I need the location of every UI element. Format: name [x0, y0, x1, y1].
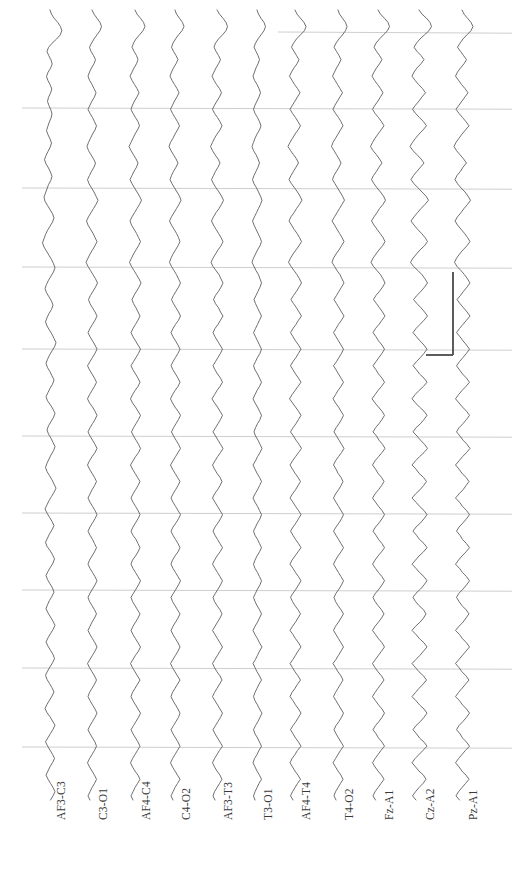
eeg-trace	[211, 10, 228, 800]
channel-label-c3-o1: C3-O1	[97, 788, 109, 820]
gridline	[22, 590, 512, 591]
gridline	[22, 436, 512, 437]
eeg-trace	[252, 10, 266, 800]
eeg-trace	[169, 10, 184, 800]
channel-label-af3-c3: AF3-C3	[55, 781, 67, 820]
eeg-trace	[86, 10, 102, 800]
eeg-trace	[410, 10, 432, 800]
channel-label-af4-t4: AF4-T4	[300, 782, 312, 820]
gridline	[22, 188, 512, 189]
gridline	[22, 108, 512, 109]
channel-label-fz-a1: Fz-A1	[383, 790, 395, 820]
channel-label-af4-c4: AF4-C4	[140, 781, 152, 820]
eeg-figure: AF3-C3C3-O1AF4-C4C4-O2AF3-T3T3-O1AF4-T4T…	[0, 0, 519, 895]
channel-label-pz-a1: Pz-A1	[467, 790, 479, 820]
eeg-trace	[371, 10, 390, 800]
channel-label-t3-o1: T3-O1	[262, 788, 274, 820]
channel-label-t4-o2: T4-O2	[343, 788, 355, 820]
eeg-trace	[332, 10, 348, 800]
gridline	[22, 267, 512, 268]
gridline	[22, 668, 512, 669]
scale-bar	[426, 272, 453, 355]
gridline	[22, 513, 512, 514]
channel-label-c4-o2: C4-O2	[180, 788, 192, 820]
eeg-trace	[288, 10, 306, 800]
eeg-trace	[43, 10, 62, 800]
gridline	[22, 349, 512, 350]
channel-label-af3-t3: AF3-T3	[222, 782, 234, 820]
eeg-trace	[454, 10, 473, 800]
eeg-traces-group	[43, 10, 474, 800]
gridline	[278, 32, 512, 33]
eeg-trace	[129, 10, 145, 800]
eeg-plot-canvas	[0, 0, 519, 895]
channel-label-cz-a2: Cz-A2	[424, 788, 436, 820]
gridlines-group	[22, 32, 512, 748]
